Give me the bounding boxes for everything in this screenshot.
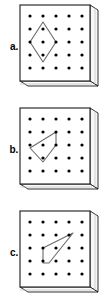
board-bottom-side-c <box>20 287 98 292</box>
geoboard-panel-c: c. <box>0 206 109 306</box>
panel-label-c: c. <box>2 248 18 258</box>
board-right-side-c <box>90 211 98 292</box>
geoboard-panel-b: b. <box>0 103 109 203</box>
board-bottom-side-a <box>20 81 98 86</box>
geoboard-svg-a <box>18 3 106 95</box>
geoboard-board-b <box>18 106 106 198</box>
geoboard-svg-b <box>18 106 106 198</box>
geoboard-board-c <box>18 209 106 301</box>
board-right-side-a <box>90 5 98 86</box>
panel-label-a: a. <box>2 42 18 52</box>
geoboard-figure-root: a. <box>0 0 109 308</box>
board-right-side-b <box>90 108 98 189</box>
geoboard-panel-a: a. <box>0 0 109 100</box>
panel-label-b: b. <box>2 145 18 155</box>
geoboard-svg-c <box>18 209 106 301</box>
geoboard-board-a <box>18 3 106 95</box>
board-bottom-side-b <box>20 184 98 189</box>
